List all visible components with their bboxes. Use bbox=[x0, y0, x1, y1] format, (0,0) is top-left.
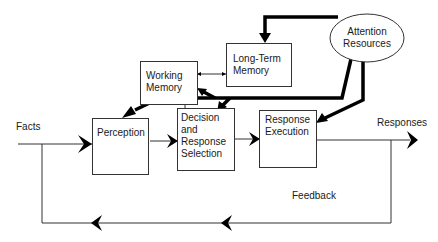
working-memory-box: Working Memory bbox=[140, 61, 198, 105]
execution-label-line1: Response bbox=[265, 114, 316, 126]
perception-label: Perception bbox=[97, 127, 148, 139]
decision-label-line4: Selection bbox=[181, 148, 234, 160]
execution-label-line2: Execution bbox=[265, 126, 316, 138]
perception-box: Perception bbox=[92, 118, 149, 175]
arrowhead-attention-perception-icon bbox=[122, 106, 136, 118]
attention-label-line2: Resources bbox=[342, 38, 392, 50]
facts-label: Facts bbox=[16, 121, 40, 133]
wm-label-line2: Memory bbox=[146, 82, 197, 94]
attention-resources-label: Attention Resources bbox=[342, 26, 392, 50]
attention-label-line1: Attention bbox=[342, 26, 392, 38]
decision-response-selection-box: Decision and Response Selection bbox=[177, 108, 235, 171]
ltm-label-line2: Memory bbox=[233, 65, 291, 77]
responses-label: Responses bbox=[377, 117, 427, 129]
decision-label-line3: Response bbox=[181, 136, 234, 148]
ltm-label-line1: Long-Term bbox=[233, 53, 291, 65]
feedback-label: Feedback bbox=[292, 190, 336, 202]
decision-label-line2: and bbox=[181, 124, 234, 136]
decision-label-line1: Decision bbox=[181, 112, 234, 124]
wm-label-line1: Working bbox=[146, 70, 197, 82]
attention-ltm-line bbox=[265, 17, 338, 36]
response-execution-box: Response Execution bbox=[259, 110, 317, 168]
long-term-memory-box: Long-Term Memory bbox=[226, 43, 292, 87]
arrowhead-attention-ltm-icon bbox=[259, 33, 271, 43]
